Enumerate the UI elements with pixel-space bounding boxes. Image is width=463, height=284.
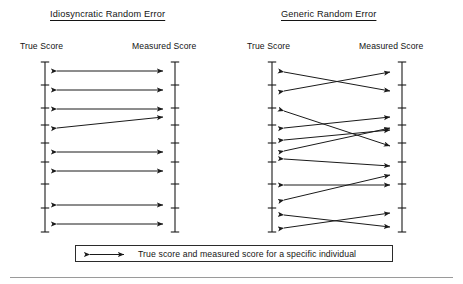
diagram-canvas <box>0 0 463 284</box>
arrow-generic-8 <box>284 175 390 200</box>
arrow-generic-6 <box>284 159 390 166</box>
legend-box: True score and measured score for a spec… <box>75 245 393 262</box>
legend-arrow-icon <box>76 246 138 261</box>
axis-true-score-idiosyncratic <box>41 62 49 232</box>
axis-measured-score-generic <box>398 62 406 232</box>
arrow-idiosyncratic-3 <box>57 117 163 128</box>
bottom-divider <box>10 277 453 278</box>
legend-label: True score and measured score for a spec… <box>138 249 356 259</box>
figure-root: Idiosyncratic Random Error Generic Rando… <box>0 0 463 284</box>
arrow-generic-10 <box>284 213 390 228</box>
axes-group <box>41 62 406 232</box>
arrows-group <box>57 71 390 228</box>
arrow-generic-3 <box>284 117 390 128</box>
arrow-generic-5 <box>284 128 390 151</box>
axis-measured-score-idiosyncratic <box>171 62 179 232</box>
arrow-generic-2 <box>284 111 390 146</box>
axis-true-score-generic <box>268 62 276 232</box>
